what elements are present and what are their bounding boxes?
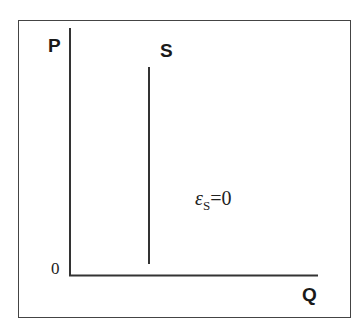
epsilon-symbol: ε [195,187,203,209]
elasticity-annotation: εS=0 [195,188,231,212]
x-axis-label: Q [302,285,317,304]
origin-label: 0 [51,260,60,277]
supply-curve-label: S [160,41,173,60]
y-axis-label: P [48,36,61,55]
equation-rest: =0 [210,187,231,209]
